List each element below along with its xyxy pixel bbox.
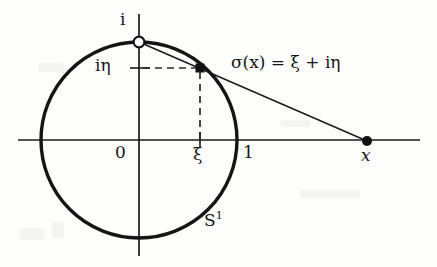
label-imaginary-unit: i: [120, 11, 125, 28]
sigma-point-marker: [196, 64, 205, 73]
label-origin: 0: [115, 144, 126, 161]
label-imaginary-part: iη: [95, 57, 111, 74]
stereographic-projection-figure: i iη σ(x) = ξ + iη 0 ξ 1 x S1: [0, 0, 437, 267]
label-circle-name: S1: [204, 212, 223, 229]
north-pole-open-marker: [134, 37, 145, 48]
label-map-equation: σ(x) = ξ + iη: [231, 54, 341, 71]
label-circle-name-base: S: [204, 210, 216, 230]
label-one: 1: [243, 144, 254, 161]
label-x-point: x: [361, 147, 371, 164]
label-xi: ξ: [193, 146, 202, 163]
label-circle-name-exponent: 1: [216, 209, 223, 222]
